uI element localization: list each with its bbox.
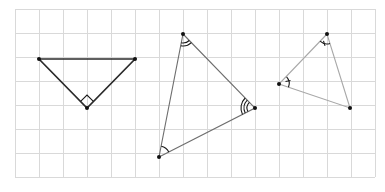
vertex-point <box>37 57 41 61</box>
vertex-point <box>277 82 281 86</box>
vertex-point <box>133 57 137 61</box>
triangles-diagram <box>0 0 385 192</box>
triangle-3-outline <box>279 34 350 108</box>
vertex-point <box>85 106 89 110</box>
grid-background <box>15 9 376 178</box>
vertex-point <box>348 106 352 110</box>
vertex-point <box>253 106 257 110</box>
triangle-3 <box>277 32 352 110</box>
triple-arc-angle-mark <box>247 102 249 111</box>
single-arc-angle-mark <box>161 146 169 152</box>
double-arc-angle-mark <box>181 41 189 43</box>
tick-mark <box>324 41 326 46</box>
vertex-point <box>157 155 161 159</box>
arc-angle-mark <box>320 41 330 44</box>
vertex-point <box>325 32 329 36</box>
vertex-point <box>181 32 185 36</box>
triangles-group <box>37 32 352 159</box>
